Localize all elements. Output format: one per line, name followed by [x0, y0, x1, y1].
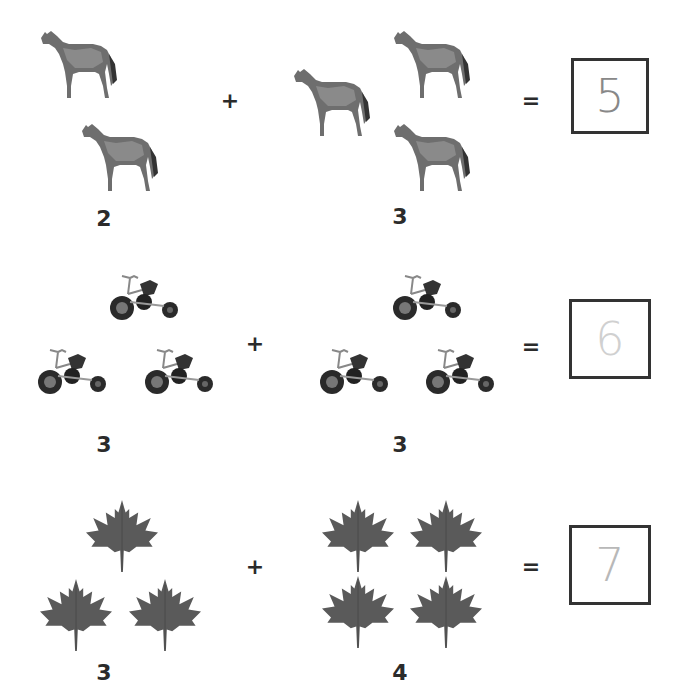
answer-value: 7	[572, 528, 648, 602]
tricycle-icon	[32, 346, 112, 400]
horse-icon	[388, 121, 472, 195]
equals-operator: =	[519, 334, 543, 359]
maple-leaf-icon	[322, 574, 394, 650]
answer-box[interactable]: 7	[569, 525, 651, 605]
equals-operator: =	[519, 554, 543, 579]
maple-leaf-icon	[410, 574, 482, 650]
maple-leaf-icon	[86, 498, 158, 574]
horse-icon	[288, 66, 372, 140]
horse-icon	[388, 28, 472, 102]
plus-operator: +	[243, 331, 267, 356]
answer-value: 5	[574, 61, 646, 131]
tricycle-icon	[314, 346, 394, 400]
plus-operator: +	[243, 554, 267, 579]
tricycle-icon	[139, 346, 219, 400]
maple-leaf-icon	[410, 498, 482, 574]
left-count: 2	[84, 206, 124, 231]
maple-leaf-icon	[40, 577, 112, 653]
maple-leaf-icon	[322, 498, 394, 574]
answer-value: 6	[572, 302, 648, 376]
tricycle-icon	[420, 346, 500, 400]
answer-box[interactable]: 5	[571, 58, 649, 134]
left-count: 3	[84, 432, 124, 457]
tricycle-icon	[387, 272, 467, 326]
equals-operator: =	[519, 88, 543, 113]
right-count: 4	[380, 660, 420, 684]
tricycle-icon	[104, 272, 184, 326]
plus-operator: +	[218, 88, 242, 113]
answer-box[interactable]: 6	[569, 299, 651, 379]
horse-icon	[35, 28, 119, 102]
left-count: 3	[84, 660, 124, 684]
right-count: 3	[380, 432, 420, 457]
maple-leaf-icon	[129, 577, 201, 653]
horse-icon	[76, 121, 160, 195]
right-count: 3	[380, 204, 420, 229]
